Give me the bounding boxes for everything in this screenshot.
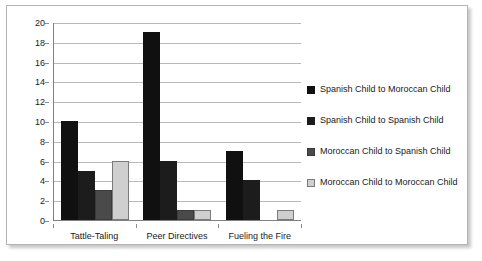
- y-tick-label: 10: [35, 118, 45, 127]
- x-category-label: Tattle-Taling: [53, 224, 136, 246]
- plot-area: [53, 23, 301, 221]
- bar[interactable]: [226, 151, 243, 220]
- y-tick-label: 16: [35, 58, 45, 67]
- legend-item[interactable]: Moroccan Child to Moroccan Child: [307, 167, 463, 198]
- y-tick-label: 14: [35, 78, 45, 87]
- chart-frame: 20181614121086420 Tattle-TalingPeer Dire…: [6, 5, 468, 245]
- bar-group: [219, 23, 301, 220]
- legend-swatch-icon: [307, 117, 315, 125]
- y-tick-mark: [45, 201, 49, 202]
- y-tick-mark: [45, 142, 49, 143]
- bar[interactable]: [177, 210, 194, 220]
- y-axis: 20181614121086420: [23, 23, 49, 221]
- y-tick-mark: [45, 162, 49, 163]
- y-tick-label: 20: [35, 19, 45, 28]
- x-category-label: Peer Directives: [136, 224, 219, 246]
- bar[interactable]: [112, 161, 129, 220]
- bar[interactable]: [277, 210, 294, 220]
- bar[interactable]: [243, 180, 260, 220]
- bar[interactable]: [160, 161, 177, 220]
- y-tick-label: 18: [35, 38, 45, 47]
- y-tick-mark: [45, 102, 49, 103]
- legend-label: Spanish Child to Moroccan Child: [320, 85, 451, 94]
- x-category-label: Fueling the Fire: [218, 224, 301, 246]
- legend-label: Moroccan Child to Spanish Child: [320, 147, 451, 156]
- x-tick-mark: [53, 224, 54, 228]
- y-tick-label: 12: [35, 98, 45, 107]
- legend-item[interactable]: Moroccan Child to Spanish Child: [307, 136, 463, 167]
- legend-item[interactable]: Spanish Child to Spanish Child: [307, 105, 463, 136]
- legend-swatch-icon: [307, 86, 315, 94]
- y-tick-mark: [45, 181, 49, 182]
- y-tick-mark: [45, 221, 49, 222]
- bar-group: [136, 23, 218, 220]
- x-axis: Tattle-TalingPeer DirectivesFueling the …: [53, 224, 301, 246]
- bar[interactable]: [143, 32, 160, 220]
- bar[interactable]: [194, 210, 211, 220]
- x-tick-mark: [218, 224, 219, 228]
- legend-label: Spanish Child to Spanish Child: [320, 116, 444, 125]
- bar[interactable]: [78, 171, 95, 221]
- bars-layer: [54, 23, 301, 220]
- y-tick-mark: [45, 63, 49, 64]
- bar[interactable]: [61, 121, 78, 220]
- y-tick-mark: [45, 23, 49, 24]
- legend-swatch-icon: [307, 179, 315, 187]
- bar-group: [54, 23, 136, 220]
- y-tick-mark: [45, 43, 49, 44]
- y-tick-mark: [45, 82, 49, 83]
- legend-swatch-icon: [307, 148, 315, 156]
- x-tick-mark: [136, 224, 137, 228]
- chart-legend: Spanish Child to Moroccan ChildSpanish C…: [307, 74, 463, 198]
- legend-label: Moroccan Child to Moroccan Child: [320, 178, 458, 187]
- bar[interactable]: [95, 190, 112, 220]
- legend-item[interactable]: Spanish Child to Moroccan Child: [307, 74, 463, 105]
- y-tick-mark: [45, 122, 49, 123]
- x-tick-mark: [301, 224, 302, 228]
